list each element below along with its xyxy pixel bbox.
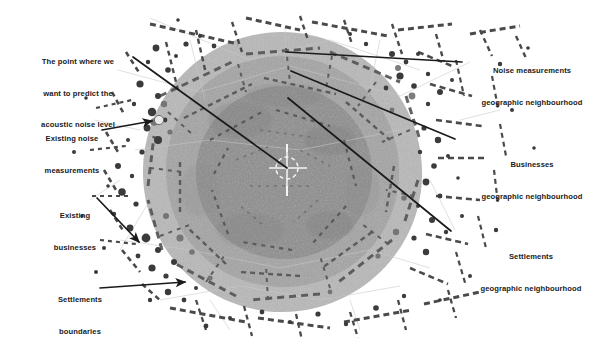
label-settlements-neighbourhood-line-2: geographic neighbourhood — [464, 284, 598, 295]
label-existing-noise-measurements: Existing noise measurements — [22, 113, 122, 197]
leader-businesses-neighbourhood — [291, 71, 455, 139]
leader-noise-neighbourhood — [286, 52, 462, 62]
label-settlements-boundaries-line-2: boundaries — [34, 327, 126, 338]
label-predict-point-line-2: want to predict the — [18, 89, 138, 100]
label-predict-point-line-1: The point where we — [18, 57, 138, 68]
label-existing-noise-line-2: measurements — [22, 166, 122, 177]
label-existing-noise-line-1: Existing noise — [22, 134, 122, 145]
label-settlements-boundaries-line-1: Settlements — [34, 295, 126, 306]
label-businesses-neighbourhood-line-2: geographic neighbourhood — [466, 192, 598, 203]
label-settlements-neighbourhood: Settlements geographic neighbourhood — [464, 231, 598, 315]
label-businesses-neighbourhood: Businesses geographic neighbourhood — [466, 139, 598, 223]
label-settlements-boundaries: Settlements boundaries — [34, 274, 126, 344]
leader-settlements-neighbourhood — [288, 98, 451, 231]
label-settlements-neighbourhood-line-1: Settlements — [464, 252, 598, 263]
label-noise-neighbourhood-line-1: Noise measurements — [466, 66, 598, 77]
label-existing-businesses-line-1: Existing — [32, 211, 118, 222]
label-businesses-neighbourhood-line-1: Businesses — [466, 160, 598, 171]
label-noise-measurements-neighbourhood: Noise measurements geographic neighbourh… — [466, 45, 598, 129]
label-noise-neighbourhood-line-2: geographic neighbourhood — [466, 98, 598, 109]
leader-predict-point — [133, 57, 287, 168]
annotated-map-figure: The point where we want to predict the a… — [0, 0, 603, 344]
label-existing-businesses: Existing businesses — [32, 190, 118, 274]
label-existing-businesses-line-2: businesses — [32, 243, 118, 254]
